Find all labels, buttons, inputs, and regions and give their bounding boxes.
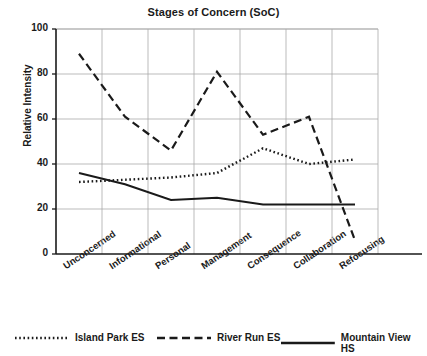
legend-swatch-dashed — [156, 333, 212, 343]
series-line-1 — [79, 54, 355, 241]
series-line-2 — [79, 173, 355, 205]
legend-item-1[interactable]: River Run ES — [156, 332, 280, 343]
chart-legend: Island Park ESRiver Run ESMountain View … — [0, 332, 427, 352]
legend-label: River Run ES — [217, 332, 280, 343]
legend-item-0[interactable]: Island Park ES — [14, 332, 144, 343]
plot-area — [0, 0, 427, 356]
legend-swatch-solid — [280, 338, 336, 348]
legend-label: Island Park ES — [75, 332, 144, 343]
legend-swatch-dotted — [14, 333, 70, 343]
legend-label: Mountain View HS — [341, 332, 427, 354]
legend-item-2[interactable]: Mountain View HS — [280, 332, 427, 354]
chart-container: Stages of Concern (SoC) Relative Intensi… — [0, 0, 427, 356]
series-line-0 — [79, 148, 355, 182]
